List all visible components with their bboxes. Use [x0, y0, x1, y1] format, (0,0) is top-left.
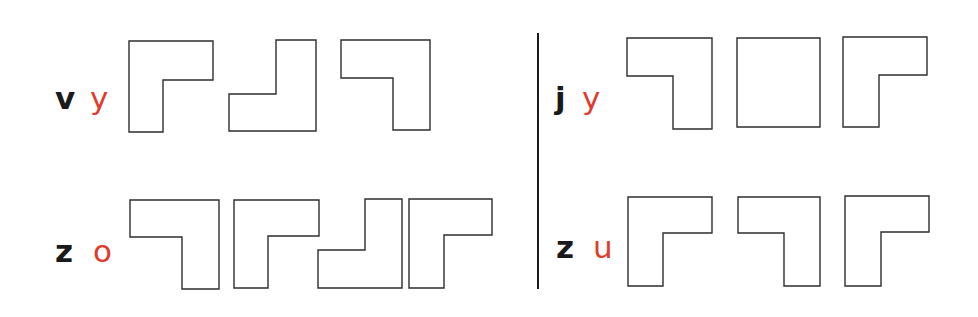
letter-label-black: z [556, 232, 574, 263]
panel-bottom-left [130, 199, 492, 289]
panel-bottom-right [628, 196, 929, 286]
l-shape-corner-top-right [341, 40, 430, 130]
square-shape [737, 38, 820, 127]
l-shape-corner-top-right [130, 200, 219, 289]
l-shape-corner-top-left [845, 196, 929, 286]
letter-label-black: v [55, 83, 75, 114]
l-shape-corner-top-left [129, 41, 213, 132]
l-shape-corner-top-left [628, 197, 712, 286]
letter-label-red: y [582, 83, 600, 114]
l-shape-corner-top-right [627, 38, 712, 129]
l-shape-corner-top-left [234, 200, 319, 288]
letter-label-red: y [90, 83, 108, 114]
l-shape-corner-bottom-right [318, 199, 402, 288]
l-shape-corner-top-left [843, 37, 927, 127]
vertical-divider [537, 33, 539, 289]
l-shape-corner-bottom-right [229, 40, 316, 131]
l-shape-corner-top-left [409, 199, 492, 288]
letter-label-red: u [593, 232, 613, 263]
shapes-canvas [0, 0, 978, 317]
panel-top-left [129, 40, 430, 132]
letter-label-black: j [555, 83, 566, 114]
panel-top-right [627, 37, 927, 129]
letter-label-black: z [55, 236, 73, 267]
l-shape-corner-top-right [738, 197, 820, 286]
letter-label-red: o [93, 236, 112, 267]
